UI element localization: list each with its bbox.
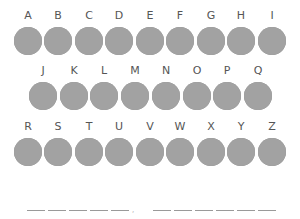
key-label: U <box>105 121 133 133</box>
letter-circle[interactable] <box>197 27 225 55</box>
letter-circle[interactable] <box>152 82 180 110</box>
letter-circle[interactable] <box>121 82 149 110</box>
letter-key-y[interactable]: Y <box>227 121 255 171</box>
key-label: O <box>183 65 211 77</box>
letter-circle[interactable] <box>136 27 164 55</box>
key-label: W <box>166 121 194 133</box>
answer-blank <box>111 210 129 211</box>
letter-circle[interactable] <box>44 138 72 166</box>
letter-circle[interactable] <box>136 138 164 166</box>
key-label: B <box>44 10 72 22</box>
letter-key-k[interactable]: K <box>60 65 88 115</box>
key-label: X <box>197 121 225 133</box>
key-label: Y <box>227 121 255 133</box>
answer-blank <box>237 210 255 211</box>
letter-key-f[interactable]: F <box>166 10 194 60</box>
letter-key-m[interactable]: M <box>121 65 149 115</box>
key-label: G <box>197 10 225 22</box>
letter-circle[interactable] <box>44 27 72 55</box>
key-label: J <box>29 65 57 77</box>
letter-circle[interactable] <box>14 138 42 166</box>
letter-circle[interactable] <box>14 27 42 55</box>
letter-circle[interactable] <box>29 82 57 110</box>
answer-slots: , <box>27 206 282 216</box>
letter-circle[interactable] <box>105 138 133 166</box>
letter-key-h[interactable]: H <box>227 10 255 60</box>
answer-blank <box>216 210 234 211</box>
letter-circle[interactable] <box>227 27 255 55</box>
letter-key-x[interactable]: X <box>197 121 225 171</box>
key-label: C <box>75 10 103 22</box>
key-label: I <box>258 10 286 22</box>
letter-key-r[interactable]: R <box>14 121 42 171</box>
key-label: M <box>121 65 149 77</box>
key-label: V <box>136 121 164 133</box>
letter-key-d[interactable]: D <box>105 10 133 60</box>
word-separator: , <box>132 206 134 214</box>
answer-blank <box>258 210 276 211</box>
letter-key-j[interactable]: J <box>29 65 57 115</box>
letter-key-t[interactable]: T <box>75 121 103 171</box>
letter-key-s[interactable]: S <box>44 121 72 171</box>
key-label: K <box>60 65 88 77</box>
letter-key-z[interactable]: Z <box>258 121 286 171</box>
key-label: H <box>227 10 255 22</box>
key-label: A <box>14 10 42 22</box>
key-label: Q <box>244 65 272 77</box>
letter-circle[interactable] <box>90 82 118 110</box>
letter-key-u[interactable]: U <box>105 121 133 171</box>
key-label: N <box>152 65 180 77</box>
letter-key-v[interactable]: V <box>136 121 164 171</box>
answer-blank <box>69 210 87 211</box>
answer-blank <box>195 210 213 211</box>
key-label: L <box>90 65 118 77</box>
letter-circle[interactable] <box>75 27 103 55</box>
letter-key-i[interactable]: I <box>258 10 286 60</box>
answer-blank <box>174 210 192 211</box>
key-label: P <box>213 65 241 77</box>
letter-circle[interactable] <box>105 27 133 55</box>
answer-blank <box>153 210 171 211</box>
letter-key-a[interactable]: A <box>14 10 42 60</box>
letter-key-l[interactable]: L <box>90 65 118 115</box>
letter-circle[interactable] <box>197 138 225 166</box>
letter-circle[interactable] <box>75 138 103 166</box>
letter-circle[interactable] <box>213 82 241 110</box>
letter-key-b[interactable]: B <box>44 10 72 60</box>
letter-circle[interactable] <box>183 82 211 110</box>
letter-circle[interactable] <box>244 82 272 110</box>
letter-key-n[interactable]: N <box>152 65 180 115</box>
letter-key-e[interactable]: E <box>136 10 164 60</box>
letter-circle[interactable] <box>258 27 286 55</box>
letter-key-c[interactable]: C <box>75 10 103 60</box>
letter-key-p[interactable]: P <box>213 65 241 115</box>
letter-key-g[interactable]: G <box>197 10 225 60</box>
letter-circle[interactable] <box>60 82 88 110</box>
key-label: S <box>44 121 72 133</box>
key-label: E <box>136 10 164 22</box>
key-label: T <box>75 121 103 133</box>
letter-circle[interactable] <box>166 27 194 55</box>
answer-blank <box>48 210 66 211</box>
key-label: D <box>105 10 133 22</box>
letter-circle[interactable] <box>166 138 194 166</box>
letter-circle[interactable] <box>258 138 286 166</box>
key-label: R <box>14 121 42 133</box>
letter-circle[interactable] <box>227 138 255 166</box>
letter-key-w[interactable]: W <box>166 121 194 171</box>
key-label: F <box>166 10 194 22</box>
letter-key-q[interactable]: Q <box>244 65 272 115</box>
letter-key-o[interactable]: O <box>183 65 211 115</box>
answer-blank <box>27 210 45 211</box>
answer-blank <box>90 210 108 211</box>
key-label: Z <box>258 121 286 133</box>
